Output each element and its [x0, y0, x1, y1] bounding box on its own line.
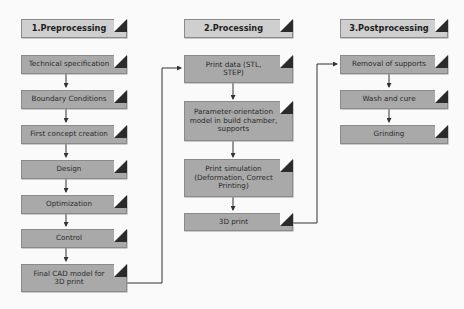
- step-print-data: Print data (STL, STEP): [184, 55, 293, 83]
- folded-corner-icon: [114, 160, 127, 173]
- folded-corner-icon: [280, 213, 293, 226]
- folded-corner-icon: [114, 125, 127, 138]
- folded-corner-icon: [435, 125, 448, 138]
- connector-print-to-removal: [293, 64, 337, 223]
- folded-corner-icon: [435, 90, 448, 103]
- step-first-concept-creation: First concept creation: [21, 125, 127, 144]
- folded-corner-icon: [280, 55, 293, 68]
- step-removal-of-supports: Removal of supports: [340, 55, 448, 74]
- folded-corner-icon: [114, 229, 127, 242]
- folded-corner-icon: [280, 19, 293, 32]
- folded-corner-icon: [280, 159, 293, 172]
- step-parameter-orientation: Parameter-orientation model in build cha…: [184, 101, 293, 141]
- step-3d-print: 3D print: [184, 213, 293, 231]
- step-print-simulation: Print simulation (Deformation, Correct P…: [184, 159, 293, 197]
- step-optimization: Optimization: [21, 195, 127, 214]
- folded-corner-icon: [435, 19, 448, 32]
- header-postprocessing: 3.Postprocessing: [340, 19, 448, 38]
- step-wash-and-cure: Wash and cure: [340, 90, 448, 109]
- step-design: Design: [21, 160, 127, 179]
- folded-corner-icon: [114, 264, 127, 277]
- folded-corner-icon: [435, 55, 448, 68]
- header-processing: 2.Processing: [184, 19, 293, 38]
- step-boundary-conditions: Boundary Conditions: [21, 90, 127, 109]
- step-technical-specification: Technical specification: [21, 55, 127, 74]
- step-control: Control: [21, 229, 127, 248]
- folded-corner-icon: [114, 19, 127, 32]
- folded-corner-icon: [280, 101, 293, 114]
- header-preprocessing: 1.Preprocessing: [21, 19, 127, 38]
- step-final-cad-model: Final CAD model for 3D print: [21, 264, 127, 292]
- step-grinding: Grinding: [340, 125, 448, 144]
- folded-corner-icon: [114, 195, 127, 208]
- connector-lines: [0, 0, 464, 309]
- folded-corner-icon: [114, 90, 127, 103]
- connector-cad-to-print-data: [127, 68, 181, 283]
- folded-corner-icon: [114, 55, 127, 68]
